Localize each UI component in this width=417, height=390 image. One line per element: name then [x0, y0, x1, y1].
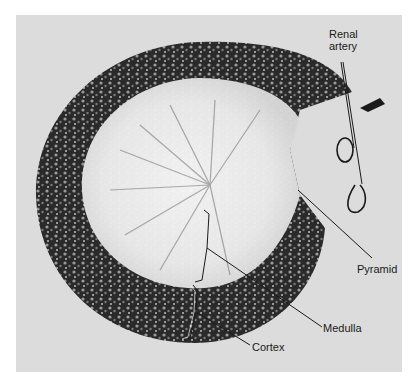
label-pyramid: Pyramid [357, 263, 397, 275]
label-cortex: Cortex [252, 341, 284, 353]
label-renal-artery-line2: artery [329, 40, 358, 52]
label-renal-artery-line1: Renal [329, 28, 358, 40]
renal-vessels [337, 138, 365, 212]
vessel-stub [360, 98, 385, 112]
kidney-illustration [16, 15, 402, 372]
label-medulla: Medulla [323, 322, 362, 334]
label-renal-artery: Renal artery [329, 28, 358, 52]
kidney-micrograph [16, 15, 402, 372]
